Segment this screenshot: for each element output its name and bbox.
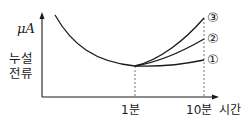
x-tick-10min: 10분 xyxy=(186,103,212,117)
x-axis-label: 시간 xyxy=(219,103,241,117)
curve-3-label: ③ xyxy=(207,11,219,25)
y-label-line2: 전류 xyxy=(9,67,33,81)
curve-2-label: ② xyxy=(207,32,219,46)
y-axis-arrow-icon xyxy=(40,12,45,19)
curve-1-label: ① xyxy=(207,53,219,67)
x-tick-1min: 1분 xyxy=(121,103,140,117)
curve-3 xyxy=(135,18,204,66)
y-unit-label: μA xyxy=(17,22,35,36)
curve-decreasing xyxy=(55,15,135,66)
y-label-line1: 누설 xyxy=(9,52,33,66)
x-axis-arrow-icon xyxy=(212,95,219,100)
